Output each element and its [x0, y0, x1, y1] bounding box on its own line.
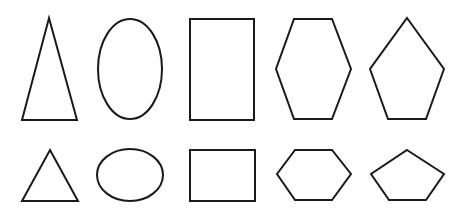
row-short-shapes: [22, 149, 444, 201]
tall-triangle: [22, 18, 77, 120]
shapes-diagram: [0, 0, 467, 216]
short-triangle: [22, 150, 78, 201]
short-hexagon: [277, 150, 351, 200]
tall-ellipse: [98, 19, 162, 119]
row-tall-shapes: [22, 18, 444, 120]
short-ellipse: [97, 149, 163, 201]
short-rectangle: [190, 150, 255, 201]
tall-rectangle: [190, 19, 254, 120]
tall-pentagon: [370, 18, 444, 119]
short-pentagon: [371, 150, 444, 200]
tall-hexagon: [276, 19, 351, 119]
